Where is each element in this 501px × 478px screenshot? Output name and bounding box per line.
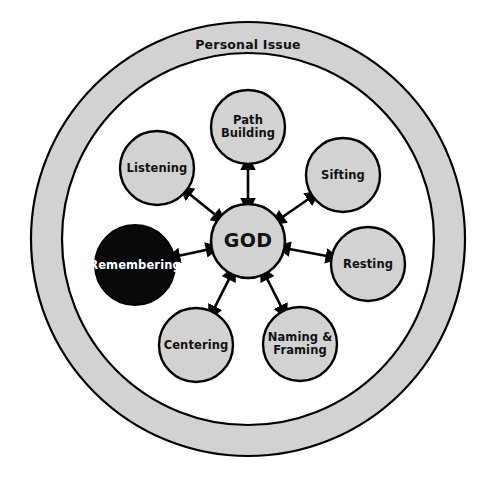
node-listening[interactable]: Listening — [120, 131, 194, 205]
diagram-canvas: PathBuildingSiftingRestingNaming &Framin… — [0, 0, 501, 478]
node-label-resting: Resting — [343, 257, 393, 271]
node-path-building[interactable]: PathBuilding — [211, 90, 285, 164]
node-label-sifting: Sifting — [321, 168, 365, 182]
node-label-remembering: Remembering — [89, 258, 181, 272]
radial-diagram: PathBuildingSiftingRestingNaming &Framin… — [0, 0, 501, 478]
node-label-listening: Listening — [127, 161, 188, 175]
node-centering[interactable]: Centering — [159, 308, 233, 382]
ring-label-group: Personal Issue — [195, 37, 301, 52]
node-sifting[interactable]: Sifting — [306, 138, 380, 212]
node-label-path-building: Building — [221, 126, 275, 140]
node-god[interactable]: GOD — [211, 204, 285, 278]
ring-label: Personal Issue — [195, 37, 301, 52]
node-label-centering: Centering — [164, 338, 229, 352]
node-resting[interactable]: Resting — [331, 227, 405, 301]
node-naming-framing[interactable]: Naming &Framing — [263, 307, 337, 381]
node-label-path-building: Path — [233, 113, 263, 127]
node-label-naming-framing: Naming & — [268, 330, 333, 344]
node-label-naming-framing: Framing — [273, 343, 327, 357]
node-label-god: GOD — [224, 229, 273, 251]
